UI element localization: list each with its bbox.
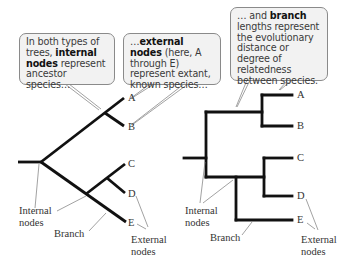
right-tip-A: A [297,89,305,101]
phylogenetic-tree-figure: In both types of trees, internal nodes r… [0,0,355,268]
left-tip-E: E [128,217,134,229]
right-tip-B: B [297,120,304,132]
left-branch-to-B [105,113,124,126]
left-tip-B: B [128,121,135,133]
right-tip-D: D [297,190,305,202]
right-tip-E: E [297,214,303,226]
callout-text: … and [237,10,270,21]
left-label-internal-nodes: Internal nodes [19,205,61,228]
left-branch-to-D [107,178,125,193]
right-tip-C: C [297,152,304,164]
right-label-internal-nodes: Internal nodes [185,205,227,228]
left-label-branch: Branch [54,228,84,240]
callout-external-nodes: …external nodes (here, A through E) repr… [123,33,221,85]
callout-internal-nodes: In both types of trees, internal nodes r… [19,33,115,85]
left-tip-C: C [128,158,135,170]
callout-branch-lengths: … and branch lengths represent the evolu… [230,7,328,81]
left-tip-D: D [128,188,136,200]
callout-text: lengths represent the evolutionary dista… [237,21,319,86]
callout-bold-term: branch [270,10,307,21]
left-tip-A: A [128,92,136,104]
left-branch-to-A [41,98,124,162]
left-label-external-nodes: External nodes [131,234,173,257]
right-label-branch: Branch [210,232,240,244]
right-label-external-nodes: External nodes [301,234,343,257]
